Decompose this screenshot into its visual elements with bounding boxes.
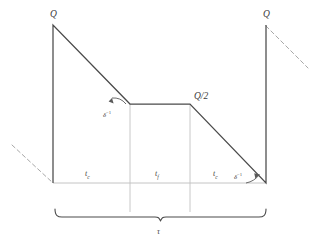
dashed-continuation-left — [12, 145, 53, 183]
interval-subscript-middle: f — [157, 174, 159, 180]
period-brace — [55, 209, 266, 221]
period-label: τ — [157, 228, 160, 236]
interval-label-last: tc — [213, 170, 218, 180]
interval-label-first: tc — [85, 170, 90, 180]
dashed-continuation-right — [266, 26, 308, 68]
slope-label-lower: δ−1 — [234, 173, 242, 181]
slope-label-upper: δ−1 — [103, 111, 111, 119]
waveform-figure — [0, 0, 317, 251]
interval-label-middle: tf — [155, 170, 159, 180]
charge-waveform-curve — [53, 25, 266, 183]
peak-label-right: Q — [263, 10, 270, 20]
slope-exponent-lower: −1 — [237, 172, 242, 177]
slope-arrowhead-upper — [109, 98, 114, 104]
peak-label-left: Q — [50, 10, 57, 20]
interval-subscript-last: c — [215, 174, 217, 180]
slope-exponent-upper: −1 — [106, 110, 111, 115]
interval-subscript-first: c — [87, 174, 89, 180]
plateau-label: Q/2 — [194, 92, 208, 102]
slope-arrow-arc-upper — [112, 98, 126, 104]
